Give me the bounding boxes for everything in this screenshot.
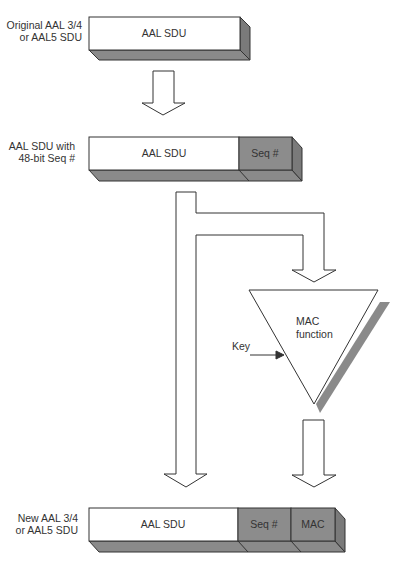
seq-label: Seq #: [250, 518, 278, 530]
sdu-with-seq-box: [89, 137, 302, 181]
key-label: Key: [232, 340, 251, 352]
box-label: AAL SDU: [142, 147, 187, 159]
down-arrow-icon: [292, 420, 336, 487]
mac-label: MAC: [296, 315, 320, 327]
mac-diagram: AAL SDU AAL SDU Seq # MAC function Key A…: [0, 0, 402, 570]
key-arrow-icon: [276, 351, 284, 359]
new-sdu-box: [89, 508, 345, 552]
box-label: AAL SDU: [141, 518, 186, 530]
box-label: AAL SDU: [142, 27, 187, 39]
mac-label: function: [296, 328, 333, 340]
seq-label: Seq #: [251, 147, 279, 159]
down-arrow-icon: [142, 71, 185, 115]
mac-label: MAC: [301, 518, 325, 530]
